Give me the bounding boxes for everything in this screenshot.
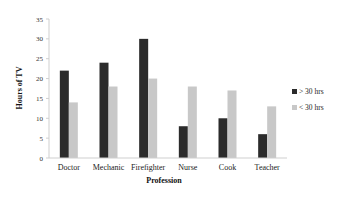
- y-tick-label: 20: [36, 75, 44, 83]
- x-tick-label: Firefighter: [131, 163, 166, 172]
- bar-cook-series-0: [219, 118, 228, 158]
- x-axis: DoctorMechanicFirefighterNurseCookTeache…: [49, 158, 287, 172]
- y-tick-label: 10: [36, 115, 44, 123]
- x-tick-label: Doctor: [58, 163, 81, 172]
- bar-firefighter-series-1: [148, 79, 157, 158]
- y-tick-label: 35: [36, 16, 44, 24]
- bar-nurse-series-0: [179, 126, 188, 158]
- x-axis-title: Profession: [146, 176, 182, 185]
- bar-mechanic-series-1: [109, 87, 118, 158]
- x-tick-label: Cook: [219, 163, 236, 172]
- bar-cook-series-1: [228, 90, 237, 158]
- legend-swatch: [292, 89, 297, 94]
- bar-doctor-series-0: [60, 71, 69, 158]
- bar-teacher-series-1: [267, 106, 276, 158]
- y-axis-title: Hours of TV: [15, 66, 24, 109]
- y-tick-label: 5: [40, 135, 44, 143]
- bar-firefighter-series-0: [139, 39, 148, 158]
- bar-mechanic-series-0: [100, 63, 109, 158]
- legend: > 30 hrs< 30 hrs: [292, 87, 324, 112]
- bars: [60, 39, 276, 158]
- legend-label: < 30 hrs: [299, 103, 324, 112]
- bar-teacher-series-0: [258, 134, 267, 158]
- x-tick-label: Nurse: [178, 163, 198, 172]
- x-tick-label: Mechanic: [93, 163, 125, 172]
- bar-doctor-series-1: [69, 102, 78, 158]
- bar-nurse-series-1: [188, 87, 197, 158]
- y-tick-label: 25: [36, 55, 44, 63]
- y-tick-label: 0: [40, 155, 44, 163]
- x-tick-label: Teacher: [255, 163, 281, 172]
- bar-chart: 05101520253035 DoctorMechanicFirefighter…: [0, 0, 344, 198]
- y-tick-label: 15: [36, 95, 44, 103]
- y-tick-label: 30: [36, 35, 44, 43]
- legend-label: > 30 hrs: [299, 87, 324, 96]
- legend-swatch: [292, 105, 297, 110]
- y-axis: 05101520253035: [36, 16, 49, 163]
